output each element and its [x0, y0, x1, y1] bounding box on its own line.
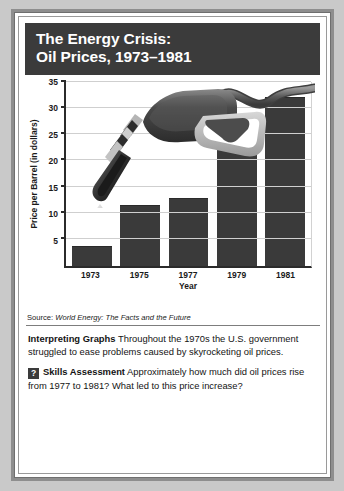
figure-page: The Energy Crisis: Oil Prices, 1973–1981…	[0, 0, 344, 491]
skills-assessment-label: Skills Assessment	[43, 366, 125, 377]
gridline	[66, 186, 311, 187]
y-tick-mark	[61, 237, 66, 239]
y-tick-label: 10	[49, 209, 58, 219]
bar	[217, 139, 257, 266]
y-tick-label: 5	[53, 236, 58, 246]
gridline	[66, 81, 311, 82]
interpreting-graphs-label: Interpreting Graphs	[28, 333, 116, 344]
bar	[169, 198, 209, 265]
divider-rule	[26, 325, 320, 326]
gridline	[66, 212, 311, 213]
x-tick-label: 1981	[265, 270, 305, 280]
y-tick-label: 35	[49, 77, 58, 87]
y-tick-mark	[61, 158, 66, 160]
gridline	[66, 133, 311, 134]
figure-title-line-2: Oil Prices, 1973–1981	[36, 48, 310, 66]
x-axis-tick-labels: 19731975197719791981	[64, 270, 312, 280]
question-badge-icon: ?	[28, 368, 39, 379]
y-tick-label: 30	[49, 103, 58, 113]
bar	[265, 97, 305, 266]
x-tick-label: 1977	[168, 270, 208, 280]
x-tick-label: 1979	[217, 270, 257, 280]
y-axis-label: Price per Barrel (in dollars)	[27, 82, 41, 267]
figure-title-line-1: The Energy Crisis:	[36, 30, 310, 48]
gridline	[66, 159, 311, 160]
y-axis-ticks: 5101520253035	[42, 82, 62, 268]
interpreting-graphs-block: Interpreting Graphs Throughout the 1970s…	[28, 332, 317, 359]
gridline	[66, 238, 311, 239]
y-tick-label: 15	[49, 183, 58, 193]
source-line: Source: World Energy: The Facts and the …	[27, 313, 320, 325]
skills-assessment-block: ?Skills Assessment Approximately how muc…	[28, 365, 317, 392]
source-prefix: Source:	[27, 313, 55, 322]
x-tick-label: 1973	[70, 270, 110, 280]
y-tick-mark	[61, 80, 66, 82]
y-tick-mark	[61, 106, 66, 108]
x-tick-label: 1975	[119, 270, 159, 280]
gridline	[66, 107, 311, 108]
bar	[120, 205, 160, 265]
y-tick-label: 20	[49, 156, 58, 166]
outer-frame: The Energy Crisis: Oil Prices, 1973–1981…	[11, 9, 334, 481]
source-title: World Energy: The Facts and the Future	[55, 313, 190, 322]
y-tick-mark	[61, 211, 66, 213]
y-tick-mark	[61, 185, 66, 187]
bar	[72, 246, 112, 265]
y-tick-mark	[61, 132, 66, 134]
bar-chart: Price per Barrel (in dollars) 5101520253…	[25, 82, 320, 310]
plot-wrapper: 5101520253035 19731975197719791981 Year	[42, 82, 320, 282]
y-tick-label: 25	[49, 130, 58, 140]
inner-frame: The Energy Crisis: Oil Prices, 1973–1981…	[18, 16, 327, 474]
x-axis-label: Year	[64, 281, 312, 291]
plot-area	[64, 82, 312, 268]
y-axis-label-text: Price per Barrel (in dollars)	[29, 120, 39, 229]
figure-title-bar: The Energy Crisis: Oil Prices, 1973–1981	[25, 23, 320, 75]
